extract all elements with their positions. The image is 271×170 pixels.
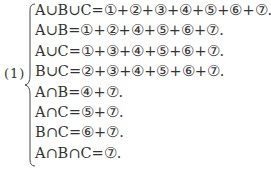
equation-union-abc: A∪B∪C=①+②+③+④+⑤+⑥+⑦. <box>35 0 271 20</box>
equation-intersection-ab: A∩B=④+⑦. <box>35 82 271 102</box>
equation-intersection-bc: B∩C=⑥+⑦. <box>35 122 271 142</box>
item-label: (1) <box>4 66 25 81</box>
equation-intersection-abc: A∩B∩C=⑦. <box>35 143 271 163</box>
equation-union-bc: B∪C=②+③+④+⑤+⑥+⑦. <box>35 61 271 81</box>
equation-union-ab: A∪B=①+②+④+⑤+⑥+⑦. <box>35 20 271 40</box>
equation-union-ac: A∪C=①+③+④+⑤+⑥+⑦. <box>35 41 271 61</box>
equation-intersection-ac: A∩C=⑤+⑦. <box>35 102 271 122</box>
equation-system: A∪B∪C=①+②+③+④+⑤+⑥+⑦. A∪B=①+②+④+⑤+⑥+⑦. A∪… <box>35 0 271 163</box>
